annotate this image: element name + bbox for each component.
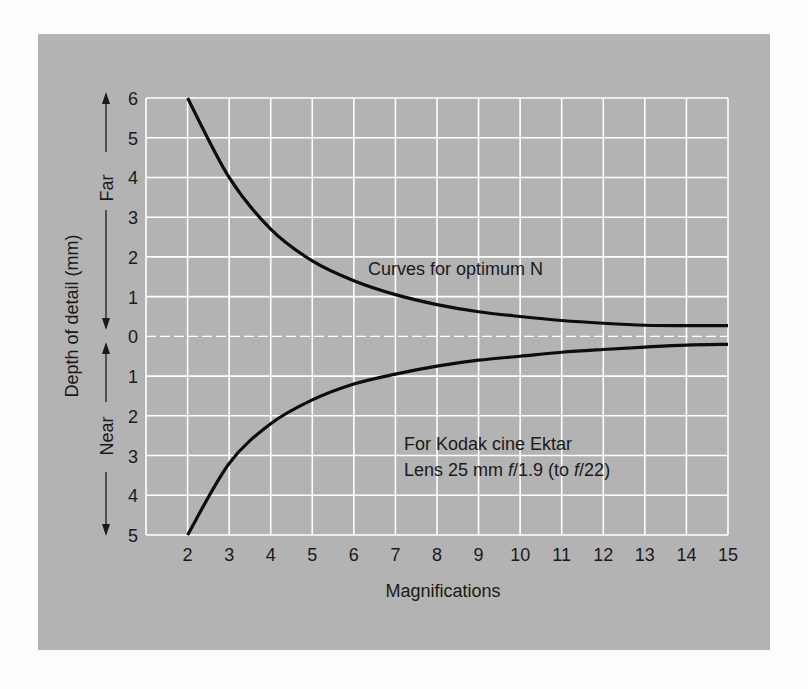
x-tick: 9 xyxy=(474,545,484,565)
annotation-lens-line1: For Kodak cine Ektar xyxy=(404,434,572,454)
x-tick: 15 xyxy=(718,545,738,565)
y-tick-far: 4 xyxy=(128,168,138,188)
near-label: Near xyxy=(97,416,117,455)
far-indicator: Far xyxy=(97,92,117,330)
far-curve xyxy=(188,98,728,326)
x-axis-ticks: 23456789101112131415 xyxy=(183,545,738,565)
y-tick-far: 5 xyxy=(128,129,138,149)
y-tick-far: 0 xyxy=(128,327,138,347)
x-tick: 13 xyxy=(635,545,655,565)
x-tick: 4 xyxy=(266,545,276,565)
y-tick-far: 2 xyxy=(128,248,138,268)
arrow-down-icon xyxy=(102,318,110,330)
annotation-curves: Curves for optimum N xyxy=(368,259,543,279)
annotation-lens-line2: Lens 25 mm f/1.9 (to f/22) xyxy=(404,460,610,480)
x-tick: 10 xyxy=(510,545,530,565)
x-tick: 2 xyxy=(183,545,193,565)
y-tick-near: 1 xyxy=(128,367,138,387)
y-tick-far: 1 xyxy=(128,288,138,308)
y-axis-ticks: 654321012345 xyxy=(128,89,138,546)
y-axis-label: Depth of detail (mm) xyxy=(62,234,82,397)
y-tick-near: 3 xyxy=(128,447,138,467)
arrow-down-icon xyxy=(102,524,110,536)
y-tick-near: 2 xyxy=(128,407,138,427)
near-indicator: Near xyxy=(97,342,117,536)
y-tick-far: 3 xyxy=(128,208,138,228)
arrow-up-icon xyxy=(102,92,110,104)
x-tick: 6 xyxy=(349,545,359,565)
x-tick: 8 xyxy=(432,545,442,565)
y-tick-near: 5 xyxy=(128,526,138,546)
y-tick-near: 4 xyxy=(128,486,138,506)
y-tick-far: 6 xyxy=(128,89,138,109)
x-tick: 14 xyxy=(676,545,696,565)
x-tick: 11 xyxy=(552,545,571,565)
depth-of-detail-chart: 654321012345 23456789101112131415 Depth … xyxy=(0,0,808,689)
x-tick: 5 xyxy=(307,545,317,565)
x-axis-label: Magnifications xyxy=(385,581,500,601)
x-tick: 7 xyxy=(390,545,400,565)
far-label: Far xyxy=(97,174,117,201)
x-tick: 3 xyxy=(224,545,234,565)
x-tick: 12 xyxy=(593,545,613,565)
